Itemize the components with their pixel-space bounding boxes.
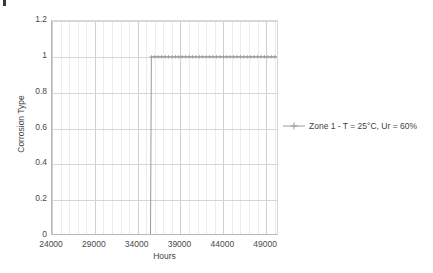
- x-tick-label: 39000: [156, 239, 202, 249]
- legend-marker-icon: [283, 121, 305, 131]
- series-line: [59, 57, 278, 235]
- x-tick-label: 44000: [199, 239, 245, 249]
- y-axis-title: Corrosion Type: [16, 74, 26, 174]
- x-tick-label: 24000: [28, 239, 74, 249]
- x-tick-label: 49000: [242, 239, 288, 249]
- chart-figure: 00.20.40.60.811.2 2400029000340003900044…: [0, 0, 433, 273]
- series-markers: [57, 55, 278, 235]
- legend-label: Zone 1 - T = 25°C, Ur = 60%: [309, 121, 417, 131]
- y-axis-title-holder: Corrosion Type: [6, 0, 20, 240]
- x-tick-label: 29000: [71, 239, 117, 249]
- series-layer: [52, 21, 277, 234]
- series-zone-1: [52, 21, 278, 235]
- x-tick-label: 34000: [114, 239, 160, 249]
- plot-area: [51, 20, 278, 235]
- legend: Zone 1 - T = 25°C, Ur = 60%: [283, 121, 417, 131]
- x-axis-title: Hours: [51, 251, 278, 261]
